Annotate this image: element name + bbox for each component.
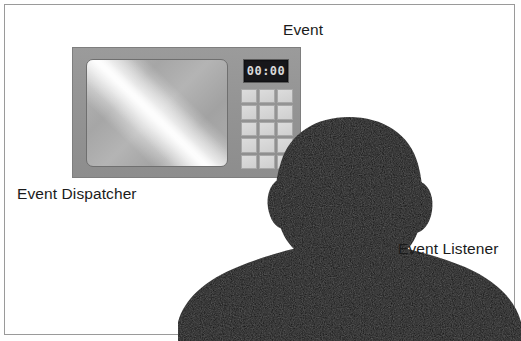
- keypad-button[interactable]: [259, 89, 275, 103]
- label-event: Event: [283, 21, 323, 39]
- event-listener-silhouette: [178, 112, 521, 341]
- microwave-clock-display: 00:00: [243, 59, 289, 83]
- diagram-canvas: Event 00:00 Event Dispatcher: [0, 0, 521, 341]
- label-event-listener: Event Listener: [398, 240, 499, 258]
- keypad-button[interactable]: [277, 89, 293, 103]
- keypad-button[interactable]: [241, 89, 257, 103]
- label-event-dispatcher: Event Dispatcher: [17, 185, 137, 203]
- clock-value: 00:00: [247, 65, 286, 77]
